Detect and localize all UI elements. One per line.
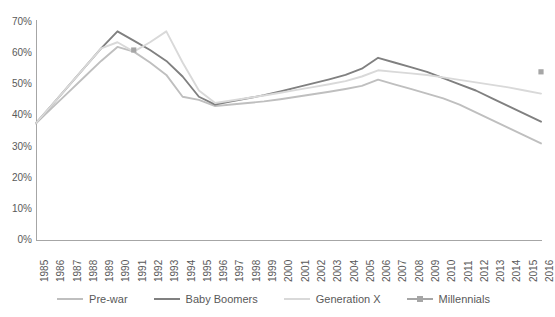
legend-swatch-icon	[284, 294, 310, 304]
series-point-marker	[131, 47, 136, 52]
legend-label: Generation X	[316, 294, 381, 305]
legend-item-millennials[interactable]: Millennials	[407, 294, 490, 305]
legend-label: Millennials	[439, 294, 490, 305]
legend-swatch-icon	[154, 294, 180, 304]
chart-legend: Pre-warBaby BoomersGeneration XMillennia…	[0, 291, 547, 307]
legend-item-baby-boomers[interactable]: Baby Boomers	[154, 294, 258, 305]
legend-item-generation-x[interactable]: Generation X	[284, 294, 381, 305]
series-line	[36, 31, 541, 123]
legend-swatch-icon	[57, 294, 83, 304]
series-line	[36, 47, 541, 144]
legend-item-pre-war[interactable]: Pre-war	[57, 294, 128, 305]
legend-label: Pre-war	[89, 294, 128, 305]
legend-swatch-icon	[407, 294, 433, 304]
legend-label: Baby Boomers	[186, 294, 258, 305]
series-point-marker	[538, 69, 543, 74]
